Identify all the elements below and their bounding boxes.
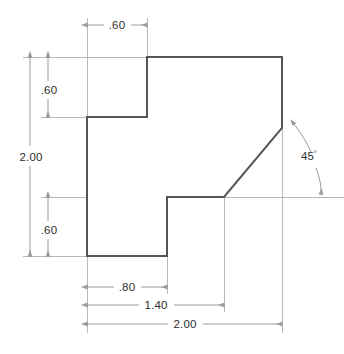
dimension-label-upper-height-060: .60 bbox=[41, 84, 58, 96]
technical-drawing: .60 .60 2.00 .60 .80 1.40 2.00 45° bbox=[0, 0, 344, 354]
dimension-label-lower-height-060: .60 bbox=[41, 224, 58, 236]
part-outline-group bbox=[87, 57, 282, 256]
dimension-label-bottom-080: .80 bbox=[119, 281, 136, 293]
angle-arc-lower bbox=[316, 168, 321, 194]
dimension-label-overall-height-200: 2.00 bbox=[19, 151, 42, 163]
drawing-canvas: .60 .60 2.00 .60 .80 1.40 2.00 45° bbox=[0, 0, 344, 354]
degree-symbol-icon: ° bbox=[314, 149, 317, 158]
angle-arc-upper bbox=[294, 124, 311, 152]
dimension-label-bottom-140: 1.40 bbox=[144, 299, 167, 311]
angle-label-45: 45° bbox=[301, 149, 317, 162]
dimension-label-top-width-060: .60 bbox=[109, 19, 126, 31]
part-profile-shape bbox=[87, 57, 282, 256]
dimension-label-overall-200: 2.00 bbox=[173, 318, 196, 330]
angle-label-45-value: 45 bbox=[301, 150, 314, 162]
